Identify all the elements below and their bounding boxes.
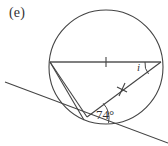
chord-left-to-tangent: [50, 62, 87, 117]
geometry-figure: (e) i 74°: [0, 0, 168, 146]
tangent-line: [5, 82, 168, 143]
angle-74-label: 74°: [96, 108, 114, 121]
part-label: (e): [9, 6, 25, 20]
geometry-canvas: [0, 0, 168, 146]
chord-left-to-tangent-secondary: [50, 62, 84, 120]
angle-i-label: i: [137, 62, 140, 73]
